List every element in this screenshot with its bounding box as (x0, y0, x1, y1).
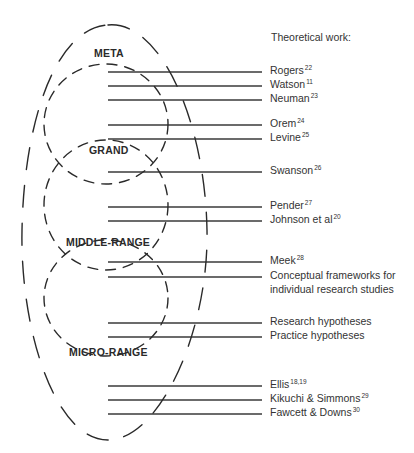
work-label-orem: Orem24 (270, 117, 304, 129)
work-label-pender: Pender27 (270, 199, 312, 211)
middle-range-circle (44, 140, 168, 270)
level-label-middle-range: MIDDLE-RANGE (66, 236, 150, 248)
levels-of-theory-diagram (0, 0, 414, 453)
work-label-swanson: Swanson26 (270, 164, 321, 176)
work-label-practice-hypotheses: Practice hypotheses (270, 329, 365, 341)
micro-range-circle (44, 240, 168, 356)
work-label-meek: Meek28 (270, 254, 304, 266)
work-label-research-hypotheses: Research hypotheses (270, 315, 372, 327)
level-label-grand: GRAND (89, 144, 129, 156)
work-label-johnson: Johnson et al20 (270, 213, 341, 225)
work-label-kikuchi-simmons: Kikuchi & Simmons29 (270, 392, 369, 404)
work-label-watson: Watson11 (270, 78, 313, 90)
work-label-individual-studies: individual research studies (270, 283, 394, 295)
work-label-neuman: Neuman23 (270, 92, 318, 104)
work-label-fawcett-downs: Fawcett & Downs30 (270, 406, 360, 418)
level-label-micro-range: MICRO-RANGE (69, 346, 148, 358)
grand-circle (44, 64, 168, 184)
work-label-rogers: Rogers22 (270, 64, 312, 76)
work-label-conceptual-frameworks: Conceptual frameworks for (270, 269, 395, 281)
work-label-levine: Levine25 (270, 131, 309, 143)
work-label-ellis: Ellis18,19 (270, 378, 307, 390)
theoretical-work-heading: Theoretical work: (271, 31, 351, 43)
level-label-meta: META (94, 47, 124, 59)
